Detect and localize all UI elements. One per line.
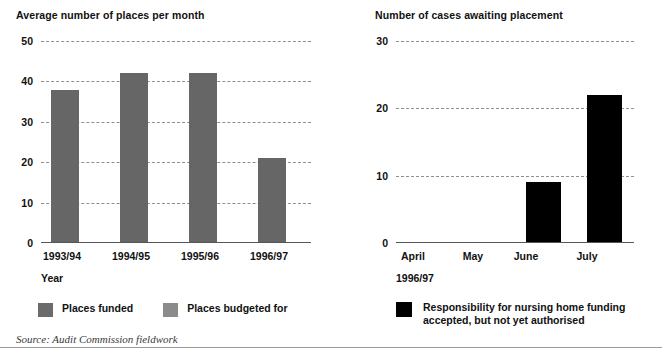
left-plot-area: 50 40 30 20 10 0: [41, 41, 311, 243]
right-x-axis-caption: 1996/97: [396, 272, 434, 284]
left-ytick-20: 20: [7, 157, 33, 168]
right-ytick-20: 20: [365, 103, 388, 114]
left-xtick-1995-96: 1995/96: [165, 250, 235, 262]
gridline-30: [396, 41, 634, 42]
left-ytick-40: 40: [7, 76, 33, 87]
legend-entry-places-budgeted: Places budgeted for: [163, 302, 287, 317]
legend-label-places-budgeted: Places budgeted for: [187, 302, 287, 315]
left-xtick-1996-97: 1996/97: [234, 250, 304, 262]
bar-1996-97: [258, 158, 286, 243]
source-note: Source: Audit Commission fieldwork: [16, 333, 178, 345]
legend-label-places-funded: Places funded: [62, 302, 133, 315]
left-chart-legend: Places funded Places budgeted for: [38, 302, 288, 317]
left-xtick-1994-95: 1994/95: [96, 250, 166, 262]
left-x-axis-caption: Year: [41, 272, 63, 284]
right-ytick-30: 30: [365, 36, 388, 47]
legend-label-responsibility-accepted: Responsibility for nursing home funding …: [423, 301, 662, 327]
chart-panel-places-per-month: Average number of places per month 50 40…: [0, 0, 358, 350]
bar-1994-95: [120, 73, 148, 243]
footer-divider: [0, 347, 662, 348]
left-ytick-10: 10: [7, 197, 33, 208]
left-x-axis-line: [41, 242, 311, 243]
bar-1995-96: [189, 73, 217, 243]
left-ytick-0: 0: [7, 238, 33, 249]
legend-entry-responsibility-accepted: Responsibility for nursing home funding …: [396, 301, 662, 327]
legend-swatch-icon-places-budgeted: [163, 303, 178, 317]
dual-bar-chart-figure: Average number of places per month 50 40…: [0, 0, 662, 350]
legend-swatch-icon-places-funded: [38, 303, 53, 317]
bar-july: [587, 95, 622, 243]
legend-entry-places-funded: Places funded: [38, 302, 133, 317]
right-x-axis-line: [396, 242, 634, 243]
chart-panel-cases-awaiting-placement: Number of cases awaiting placement 30 20…: [358, 0, 662, 350]
gridline-30: [41, 122, 311, 123]
gridline-50: [41, 41, 311, 42]
right-xtick-june: June: [491, 250, 561, 262]
left-xtick-1993-94: 1993/94: [27, 250, 97, 262]
bar-june: [526, 182, 561, 243]
right-chart-legend: Responsibility for nursing home funding …: [396, 301, 662, 327]
right-plot-area: 30 20 10 0: [396, 41, 634, 243]
right-ytick-10: 10: [365, 170, 388, 181]
right-xtick-july: July: [552, 250, 622, 262]
left-ytick-30: 30: [7, 117, 33, 128]
left-chart-title: Average number of places per month: [16, 9, 205, 21]
left-ytick-50: 50: [7, 36, 33, 47]
gridline-40: [41, 81, 311, 82]
legend-swatch-icon-responsibility-accepted: [396, 302, 412, 317]
right-ytick-0: 0: [365, 238, 388, 249]
bar-1993-94: [51, 90, 79, 244]
right-chart-title: Number of cases awaiting placement: [375, 9, 563, 21]
